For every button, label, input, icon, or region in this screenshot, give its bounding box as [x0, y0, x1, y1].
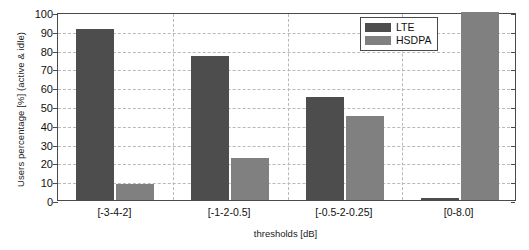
bar-hsdpa-group-2 [231, 158, 269, 200]
y-axis-tick-label: 50 [41, 102, 53, 114]
y-axis-tick-right [511, 89, 515, 90]
chart-legend: LTE HSDPA [360, 17, 438, 51]
x-group-separator [173, 14, 174, 200]
y-axis-tick-right [511, 202, 515, 203]
x-axis-tick-label: [-0.5-2-0.25] [315, 206, 372, 218]
y-axis-tick-right [511, 14, 515, 15]
y-axis-tick-label: 30 [41, 140, 53, 152]
bar-hsdpa-group-4 [461, 12, 499, 200]
y-axis-tick [53, 70, 58, 71]
figure-canvas: Users percentage [%] (active & idle) 010… [0, 0, 529, 250]
bar-lte-group-1 [76, 29, 114, 200]
y-axis-tick-right [511, 127, 515, 128]
y-axis-tick-label: 40 [41, 121, 53, 133]
x-axis-tick-label: [0-8.0] [444, 206, 474, 218]
y-gridline [58, 164, 515, 165]
bar-hsdpa-group-1 [116, 184, 154, 200]
bar-lte-group-3 [306, 97, 344, 200]
plot-area: 0102030405060708090100 [57, 13, 516, 201]
y-axis-tick-label: 20 [41, 158, 53, 170]
y-gridline [58, 146, 515, 147]
legend-label-hsdpa: HSDPA [396, 35, 431, 46]
y-axis-tick-label: 80 [41, 46, 53, 58]
y-gridline [58, 89, 515, 90]
y-axis-tick [53, 33, 58, 34]
x-group-separator [288, 14, 289, 200]
y-axis-title: Users percentage [%] (active & idle) [15, 10, 26, 210]
x-axis-title-text: thresholds [dB] [254, 228, 317, 239]
y-axis-tick-label: 10 [41, 177, 53, 189]
y-axis-tick [53, 183, 58, 184]
bar-hsdpa-group-3 [346, 116, 384, 200]
y-gridline [58, 108, 515, 109]
legend-label-lte: LTE [396, 22, 414, 33]
y-axis-tick-right [511, 33, 515, 34]
bar-lte-group-2 [191, 56, 229, 200]
y-axis-tick-right [511, 108, 515, 109]
y-axis-tick-right [511, 183, 515, 184]
y-axis-tick [53, 14, 58, 15]
y-axis-tick [53, 52, 58, 53]
x-axis-title: thresholds [dB] [0, 228, 529, 239]
legend-item-hsdpa: HSDPA [365, 34, 431, 47]
plot-inner [58, 14, 515, 200]
y-axis-tick [53, 146, 58, 147]
y-axis-tick-label: 60 [41, 83, 53, 95]
y-axis-tick-label: 100 [35, 8, 53, 20]
legend-swatch-hsdpa-icon [365, 36, 391, 45]
y-gridline [58, 127, 515, 128]
y-axis-tick [53, 89, 58, 90]
x-axis-tick-label: [-3-4-2] [97, 206, 131, 218]
y-axis-tick [53, 202, 58, 203]
legend-item-lte: LTE [365, 21, 431, 34]
y-axis-tick-right [511, 146, 515, 147]
y-axis-tick [53, 108, 58, 109]
y-axis-tick [53, 127, 58, 128]
y-gridline [58, 33, 515, 34]
legend-swatch-lte-icon [365, 23, 391, 32]
y-axis-tick-label: 90 [41, 27, 53, 39]
y-axis-tick-right [511, 70, 515, 71]
y-gridline [58, 52, 515, 53]
y-axis-tick-label: 70 [41, 64, 53, 76]
y-gridline [58, 70, 515, 71]
y-axis-tick-label: 0 [47, 196, 53, 208]
y-axis-tick-right [511, 164, 515, 165]
y-axis-tick [53, 164, 58, 165]
y-axis-tick-right [511, 52, 515, 53]
x-axis-tick-label: [-1-2-0.5] [208, 206, 251, 218]
bar-lte-group-4 [421, 198, 459, 200]
